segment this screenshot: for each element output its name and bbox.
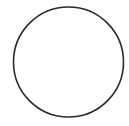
circle-outline [14, 7, 124, 117]
diagram-canvas [0, 0, 129, 126]
